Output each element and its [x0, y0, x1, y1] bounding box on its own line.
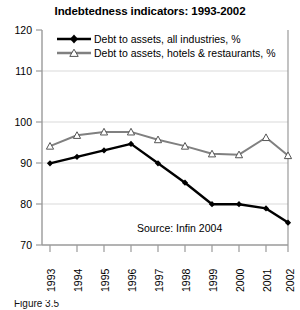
series-layer [46, 128, 291, 225]
data-point-diamond [47, 160, 53, 166]
x-axis-tick-label: 2002 [285, 269, 295, 292]
data-point-diamond [74, 154, 80, 160]
chart-figure: Indebtedness indicators: 1993-2002 120 1… [0, 0, 300, 310]
legend-item-all-industries: Debt to assets, all industries, % [55, 32, 287, 46]
data-point-diamond [236, 201, 242, 207]
figure-caption: Figure 3.5 [0, 300, 300, 310]
x-axis-tick-label: 1994 [73, 269, 83, 292]
source-annotation: Source: Infin 2004 [137, 222, 222, 234]
figure-caption-text: Figure 3.5 [14, 300, 59, 309]
x-axis-tick-label: 2001 [262, 269, 272, 292]
data-point-diamond [101, 147, 107, 153]
chart-legend: Debt to assets, all industries, % Debt t… [55, 32, 287, 60]
series-line [50, 132, 288, 156]
x-axis-tick-label: 1999 [208, 269, 218, 292]
legend-marker-open-triangle [55, 46, 93, 60]
legend-item-hotels-restaurants: Debt to assets, hotels & restaurants, % [55, 46, 287, 60]
x-axis-ticks [50, 245, 288, 252]
series-line [50, 144, 288, 223]
x-axis-tick-label: 1998 [181, 269, 191, 292]
x-axis-tick-label: 1996 [127, 269, 137, 292]
x-axis-tick-label: 1995 [100, 269, 110, 292]
legend-label: Debt to assets, all industries, % [94, 33, 240, 45]
x-axis-tick-label: 2000 [235, 269, 245, 292]
y-axis-ticks [36, 30, 42, 245]
x-axis-tick-label: 1997 [154, 269, 164, 292]
data-point-triangle [262, 134, 269, 141]
legend-label: Debt to assets, hotels & restaurants, % [94, 47, 276, 59]
legend-marker-filled-diamond [55, 32, 93, 46]
x-axis-tick-label: 1993 [46, 269, 56, 292]
